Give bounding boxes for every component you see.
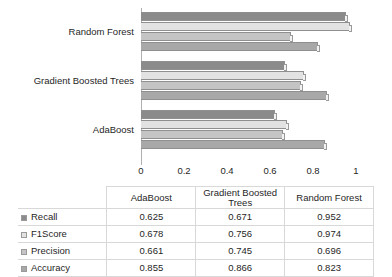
bar-row bbox=[141, 61, 356, 70]
legend-label: Recall bbox=[31, 211, 57, 222]
table-row: Accuracy0.8550.8660.823 bbox=[18, 260, 374, 277]
category-label: AdaBoost bbox=[93, 125, 134, 135]
bar-row bbox=[141, 91, 356, 100]
table-cell: 0.952 bbox=[285, 209, 374, 226]
bar-row bbox=[141, 130, 356, 139]
plot-area: Random ForestGradient Boosted TreesAdaBo… bbox=[141, 8, 356, 165]
value-axis: 00.20.40.60.81 bbox=[141, 166, 356, 182]
table-cell: 0.855 bbox=[107, 260, 196, 277]
bar-row bbox=[141, 110, 356, 119]
bar-row bbox=[141, 120, 356, 129]
data-table: AdaBoostGradient Boosted TreesRandom For… bbox=[18, 186, 374, 277]
table-cell: 0.974 bbox=[285, 226, 374, 243]
bar-row bbox=[141, 140, 356, 149]
bar-group: Random Forest bbox=[141, 12, 356, 52]
bar-row bbox=[141, 32, 356, 41]
table-cell: 0.678 bbox=[107, 226, 196, 243]
bar-group: Gradient Boosted Trees bbox=[141, 61, 356, 101]
bar-group: AdaBoost bbox=[141, 110, 356, 150]
legend-entry-accuracy: Accuracy bbox=[18, 260, 107, 277]
bar-row bbox=[141, 71, 356, 80]
bar-row bbox=[141, 12, 356, 21]
bar-accuracy bbox=[141, 42, 318, 51]
table-cell: 0.696 bbox=[285, 243, 374, 260]
table-body: Recall0.6250.6710.952F1Score0.6780.7560.… bbox=[18, 209, 374, 277]
table-row: Recall0.6250.6710.952 bbox=[18, 209, 374, 226]
bar-recall bbox=[141, 61, 285, 70]
legend-entry-recall: Recall bbox=[18, 209, 107, 226]
table-cell: 0.823 bbox=[285, 260, 374, 277]
legend-label: F1Score bbox=[31, 228, 67, 239]
table-header-row: AdaBoostGradient Boosted TreesRandom For… bbox=[18, 187, 374, 209]
table-row: F1Score0.6780.7560.974 bbox=[18, 226, 374, 243]
table-cell: 0.745 bbox=[196, 243, 285, 260]
legend-label: Precision bbox=[31, 245, 70, 256]
table-cell: 0.671 bbox=[196, 209, 285, 226]
bar-f1score bbox=[141, 120, 287, 129]
category-label: Gradient Boosted Trees bbox=[34, 76, 134, 86]
bar-row bbox=[141, 22, 356, 31]
bar-recall bbox=[141, 12, 346, 21]
bar-f1score bbox=[141, 71, 304, 80]
bar-precision bbox=[141, 32, 291, 41]
table-cell: 0.625 bbox=[107, 209, 196, 226]
legend-swatch-icon bbox=[21, 215, 27, 221]
bar-recall bbox=[141, 110, 275, 119]
legend-swatch-icon bbox=[21, 266, 27, 272]
bar-row bbox=[141, 42, 356, 51]
table-corner-cell bbox=[18, 187, 107, 209]
table-column-header: AdaBoost bbox=[107, 187, 196, 209]
bar-accuracy bbox=[141, 140, 325, 149]
table-cell: 0.866 bbox=[196, 260, 285, 277]
category-label: Random Forest bbox=[69, 27, 134, 37]
axis-tick-label: 0.2 bbox=[177, 166, 190, 176]
bar-chart: Random ForestGradient Boosted TreesAdaBo… bbox=[0, 0, 392, 186]
legend-swatch-icon bbox=[21, 232, 27, 238]
bar-precision bbox=[141, 130, 283, 139]
table-column-header: Gradient Boosted Trees bbox=[196, 187, 285, 209]
bar-accuracy bbox=[141, 91, 327, 100]
table-header: AdaBoostGradient Boosted TreesRandom For… bbox=[18, 187, 374, 209]
bar-f1score bbox=[141, 22, 350, 31]
table-cell: 0.661 bbox=[107, 243, 196, 260]
legend-entry-precision: Precision bbox=[18, 243, 107, 260]
legend-swatch-icon bbox=[21, 249, 27, 255]
legend-label: Accuracy bbox=[31, 262, 70, 273]
table-row: Precision0.6610.7450.696 bbox=[18, 243, 374, 260]
table-cell: 0.756 bbox=[196, 226, 285, 243]
axis-tick-label: 0.4 bbox=[220, 166, 233, 176]
axis-tick-label: 0 bbox=[138, 166, 143, 176]
bar-row bbox=[141, 81, 356, 90]
axis-tick-label: 0.8 bbox=[306, 166, 319, 176]
bar-precision bbox=[141, 81, 301, 90]
axis-tick-label: 0.6 bbox=[263, 166, 276, 176]
table-column-header: Random Forest bbox=[285, 187, 374, 209]
axis-tick-label: 1 bbox=[353, 166, 358, 176]
legend-entry-f1score: F1Score bbox=[18, 226, 107, 243]
